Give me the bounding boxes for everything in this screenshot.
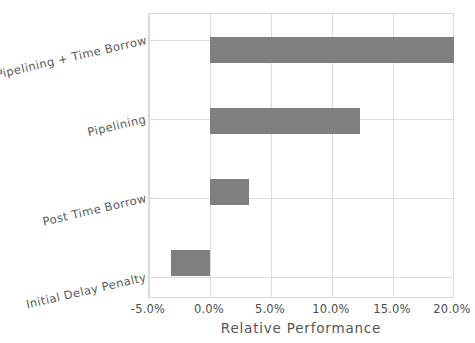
y-tick-holder: Pipelining [0,111,150,125]
gridline-horizontal [149,277,453,278]
gridline-horizontal [149,198,453,199]
y-tick-label-post-time-borrow: Post Time Borrow [41,190,152,228]
plot-area [148,13,454,298]
bar-initial-delay-penalty [171,250,210,276]
x-tick-label: 10.0% [296,302,366,316]
y-tick-holder: Initial Delay Penalty [0,269,150,283]
bar-pipelining [210,108,359,134]
x-tick-label: 0.0% [174,302,244,316]
y-tick-label-pipelining: Pipelining [86,111,151,139]
x-axis-title: Relative Performance [148,320,454,336]
bar-post-time-borrow [210,179,249,205]
y-tick-holder: Pipelining + Time Borrow [0,32,150,46]
y-tick-label-pipelining-plus-time-borrow: Pipelining + Time Borrow [0,32,152,81]
bar-pipelining-plus-time-borrow [210,37,454,63]
y-tick-holder: Post Time Borrow [0,190,150,204]
x-tick-label: 5.0% [235,302,305,316]
x-tick-label: -5.0% [113,302,183,316]
x-tick-label: 20.0% [417,302,475,316]
gridline-vertical [149,14,150,297]
